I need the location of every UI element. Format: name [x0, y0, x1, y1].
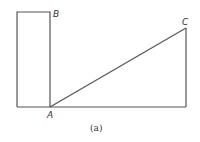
point-label-b: B [53, 9, 59, 19]
figure-caption: (a) [90, 123, 102, 133]
geometry-diagram: B C A (a) [0, 0, 200, 142]
diagonal-line-ac [50, 28, 186, 107]
point-label-c: C [182, 17, 189, 27]
left-rectangle [17, 12, 50, 107]
point-label-a: A [46, 110, 53, 120]
